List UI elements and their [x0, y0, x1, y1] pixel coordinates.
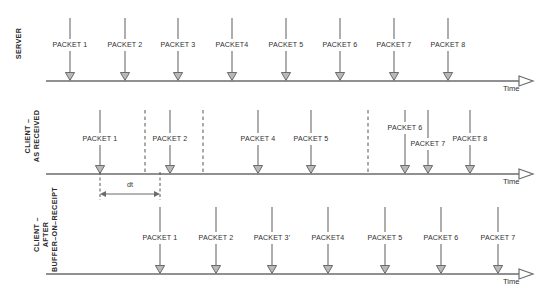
packet-label-server-6: PACKET 7 [377, 41, 412, 49]
packet-label-client-after-buffer-on-receipt-1: PACKET 2 [199, 234, 234, 242]
lane-label-line-client-after-buffer-on-receipt-0: CLIENT – [32, 197, 41, 272]
packet-timing-diagram: PACKET 1PACKET 2PACKET 3PACKET4PACKET 5P… [0, 0, 553, 295]
packet-label-client-after-buffer-on-receipt-2: PACKET 3' [254, 234, 290, 242]
packet-arrowhead-client-after-buffer-on-receipt-3 [323, 266, 332, 274]
packet-label-client-after-buffer-on-receipt-5: PACKET 6 [424, 234, 459, 242]
time-axis-label-client-as-received: Time [503, 177, 520, 186]
lane-label-server: SERVER [14, 8, 23, 79]
dt-arrowhead-right [154, 191, 160, 197]
packet-label-server-4: PACKET 5 [269, 41, 304, 49]
lane-label-line-client-as-received-1: AS RECEIVED [32, 100, 41, 172]
packet-arrowhead-server-3 [227, 73, 236, 81]
packet-label-server-0: PACKET 1 [53, 41, 88, 49]
lane-label-client-after-buffer-on-receipt: CLIENT –AFTERBUFFER–ON–RECEIPT [32, 197, 59, 272]
packet-arrowhead-client-after-buffer-on-receipt-1 [211, 266, 220, 274]
packet-label-client-as-received-4: PACKET 6 [388, 124, 423, 132]
lane-label-line-client-as-received-0: CLIENT – [23, 100, 32, 172]
lane-label-line-client-after-buffer-on-receipt-1: AFTER [41, 197, 50, 272]
time-axis-arrowhead-client-as-received [519, 169, 533, 179]
time-axis-arrowhead-server [519, 76, 533, 86]
packet-label-server-2: PACKET 3 [161, 41, 196, 49]
packet-arrowhead-server-1 [120, 73, 129, 81]
packet-label-client-as-received-5: PACKET 7 [411, 140, 446, 148]
packet-arrowhead-server-4 [281, 73, 290, 81]
packet-arrowhead-client-as-received-6 [465, 166, 474, 174]
packet-arrowhead-client-as-received-1 [165, 166, 174, 174]
packet-arrowhead-server-7 [443, 73, 452, 81]
packet-arrowhead-client-after-buffer-on-receipt-5 [436, 266, 445, 274]
packet-label-client-as-received-2: PACKET 4 [241, 135, 276, 143]
packet-arrowhead-server-6 [389, 73, 398, 81]
dt-annotation-label: dt [127, 180, 133, 189]
dt-arrowhead-left [100, 191, 106, 197]
packet-arrowhead-client-after-buffer-on-receipt-6 [493, 266, 502, 274]
lane-label-client-as-received: CLIENT –AS RECEIVED [23, 100, 41, 172]
packet-arrowhead-server-0 [65, 73, 74, 81]
lane-label-line-client-after-buffer-on-receipt-2: BUFFER–ON–RECEIPT [50, 197, 59, 272]
packet-arrowhead-server-5 [335, 73, 344, 81]
packet-label-client-after-buffer-on-receipt-3: PACKET4 [312, 234, 345, 242]
packet-label-client-after-buffer-on-receipt-0: PACKET 1 [143, 234, 178, 242]
packet-arrowhead-client-after-buffer-on-receipt-4 [380, 266, 389, 274]
packet-label-client-as-received-1: PACKET 2 [153, 135, 188, 143]
packet-label-client-after-buffer-on-receipt-4: PACKET 5 [368, 234, 403, 242]
packet-arrowhead-client-after-buffer-on-receipt-0 [155, 266, 164, 274]
packet-label-server-7: PACKET 8 [431, 41, 466, 49]
packet-label-server-1: PACKET 2 [108, 41, 143, 49]
packet-arrowhead-client-as-received-3 [306, 166, 315, 174]
lane-label-line-server-0: SERVER [14, 8, 23, 79]
time-axis-label-server: Time [503, 84, 520, 93]
time-axis-label-client-after-buffer-on-receipt: Time [503, 277, 520, 286]
packet-label-client-as-received-0: PACKET 1 [83, 135, 118, 143]
packet-arrowhead-client-as-received-2 [253, 166, 262, 174]
packet-label-server-3: PACKET4 [216, 41, 249, 49]
packet-arrowhead-server-2 [173, 73, 182, 81]
packet-arrowhead-client-after-buffer-on-receipt-2 [267, 266, 276, 274]
packet-label-client-after-buffer-on-receipt-6: PACKET 7 [481, 234, 516, 242]
packet-arrowhead-client-as-received-4 [400, 166, 409, 174]
packet-arrowhead-client-as-received-5 [423, 166, 432, 174]
packet-label-client-as-received-6: PACKET 8 [453, 135, 488, 143]
packet-label-server-5: PACKET 6 [323, 41, 358, 49]
packet-label-client-as-received-3: PACKET 5 [294, 135, 329, 143]
time-axis-arrowhead-client-after-buffer-on-receipt [519, 269, 533, 279]
